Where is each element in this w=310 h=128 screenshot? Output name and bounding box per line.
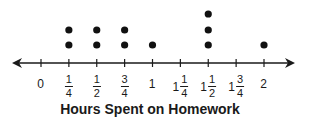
data-dot (65, 41, 72, 48)
tick-label: 12 (93, 74, 101, 99)
tick-fraction: 14 (65, 74, 73, 99)
tick-fraction: 34 (236, 74, 244, 99)
tick-label: 14 (65, 74, 73, 99)
data-dot (205, 41, 212, 48)
tick-label: 112 (200, 74, 216, 99)
tick-label: 2 (260, 77, 268, 90)
tick-fraction: 12 (208, 74, 216, 99)
tick-fraction: 12 (93, 74, 101, 99)
number-line (12, 58, 295, 68)
tick-label: 1 (149, 77, 157, 90)
tick-label: 134 (228, 74, 244, 99)
data-dot (205, 26, 212, 33)
tick-whole: 1 (228, 80, 235, 94)
tick-whole: 0 (37, 77, 44, 91)
tick-label: 34 (121, 74, 129, 99)
data-dot (260, 41, 267, 48)
data-dot (121, 26, 128, 33)
tick-whole: 1 (200, 80, 207, 94)
tick-label: 114 (172, 74, 188, 99)
data-dot (205, 10, 212, 17)
tick-fraction: 34 (121, 74, 129, 99)
data-dot (93, 41, 100, 48)
tick-whole: 1 (149, 77, 156, 91)
data-dot (93, 26, 100, 33)
tick-label: 0 (37, 77, 45, 90)
data-dot (65, 26, 72, 33)
data-dot (149, 41, 156, 48)
x-axis-title: Hours Spent on Homework (0, 101, 300, 117)
data-dot (121, 41, 128, 48)
tick-whole: 2 (260, 77, 267, 91)
tick-fraction: 14 (180, 74, 188, 99)
data-dots (65, 10, 267, 48)
tick-whole: 1 (172, 80, 179, 94)
